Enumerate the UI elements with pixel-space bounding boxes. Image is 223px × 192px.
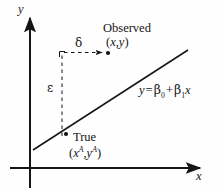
- beta0-symbol: β: [154, 82, 161, 97]
- paren-close: ): [97, 146, 101, 160]
- observed-coordinates-label: (x,y): [106, 36, 129, 49]
- equation-equals: =: [146, 83, 153, 97]
- true-point-marker: [64, 132, 68, 136]
- epsilon-symbol-label: ε: [47, 82, 53, 95]
- regression-line: [33, 50, 188, 150]
- delta-symbol-label: δ: [75, 37, 82, 50]
- equation-plus: +: [166, 83, 173, 97]
- true-coordinates-label: (xA,yA): [69, 146, 101, 160]
- paren-close: ): [124, 35, 128, 49]
- observed-label: Observed: [103, 22, 151, 35]
- observed-point-marker: [106, 51, 110, 55]
- regression-diagram-figure: y x Observed (x,y) True (xA,yA) y = β0 +…: [0, 0, 223, 192]
- y-axis-label: y: [18, 3, 24, 16]
- x-axis-label: x: [196, 170, 202, 183]
- true-label: True: [73, 131, 96, 144]
- regression-equation-label: y = β0 + β1x: [139, 83, 191, 100]
- equation-x-var: x: [185, 83, 191, 97]
